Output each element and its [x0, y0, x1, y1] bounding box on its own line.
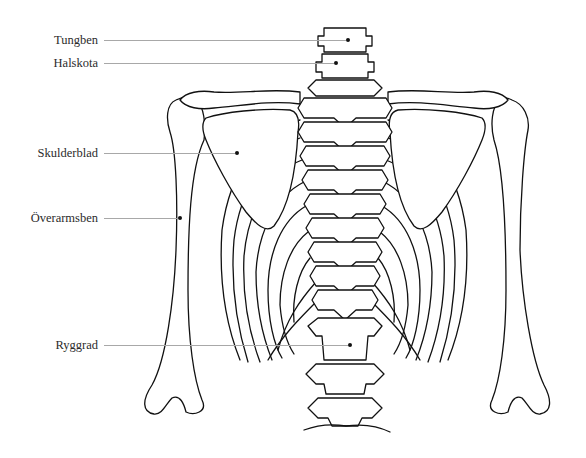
- right-humerus: [491, 98, 550, 414]
- leader-line-tungben: [104, 40, 346, 41]
- leader-line-ryggrad: [104, 345, 348, 346]
- label-overarmsben: Överarmsben: [31, 211, 98, 225]
- leader-line-skulderblad: [104, 153, 235, 154]
- left-scapula: [203, 109, 299, 228]
- leader-line-halskota: [104, 63, 334, 64]
- marker-dot-skulderblad: [235, 151, 239, 155]
- marker-dot-halskota: [334, 61, 338, 65]
- left-humerus: [145, 97, 205, 414]
- leader-line-overarmsben: [104, 218, 178, 219]
- marker-dot-overarmsben: [178, 216, 182, 220]
- spine: [298, 28, 392, 432]
- skeleton-diagram: Tungben Halskota Skulderblad Överarmsben…: [0, 0, 586, 458]
- label-skulderblad: Skulderblad: [38, 146, 98, 160]
- label-halskota: Halskota: [54, 56, 98, 70]
- right-scapula: [389, 109, 485, 228]
- marker-dot-ryggrad: [348, 343, 352, 347]
- label-tungben: Tungben: [54, 33, 98, 47]
- marker-dot-tungben: [346, 38, 350, 42]
- label-ryggrad: Ryggrad: [55, 338, 98, 352]
